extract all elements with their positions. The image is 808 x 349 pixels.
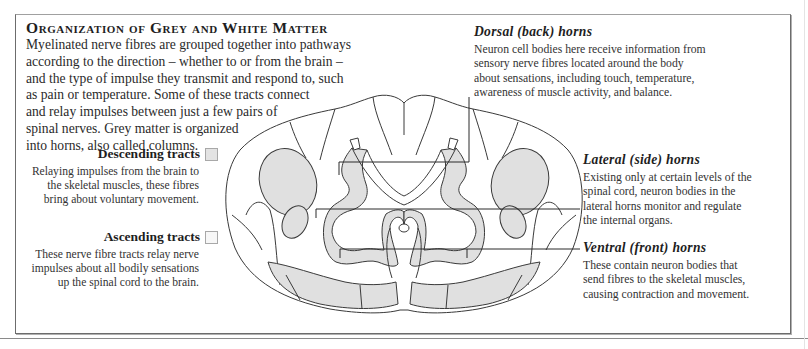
- callout-line: about sensations, including touch, tempe…: [474, 72, 706, 86]
- callout-line: Existing only at certain levels of the: [583, 171, 752, 185]
- dorsal-horns-label: Dorsal (back) horns: [474, 24, 706, 40]
- callout-lateral: Lateral (side) horns Existing only at ce…: [583, 152, 752, 228]
- callout-dorsal: Dorsal (back) horns Neuron cell bodies h…: [474, 24, 706, 100]
- callout-line: awareness of muscle activity, and balanc…: [474, 86, 706, 100]
- ventral-horns-label: Ventral (front) horns: [583, 240, 749, 256]
- callout-line: spinal cord, neuron bodies in the: [583, 185, 752, 199]
- callout-line: These contain neuron bodies that: [583, 259, 749, 273]
- callout-line: causing contraction and movement.: [583, 288, 749, 302]
- callout-line: send fibres to the skeletal muscles,: [583, 273, 749, 287]
- callout-line: lateral horns monitor and regulate: [583, 200, 752, 214]
- callout-line: the internal organs.: [583, 214, 752, 228]
- callout-line: sensory nerve fibres located around the …: [474, 57, 706, 71]
- callout-line: Neuron cell bodies here receive informat…: [474, 43, 706, 57]
- lateral-horns-label: Lateral (side) horns: [583, 152, 752, 168]
- central-canal: [399, 224, 409, 232]
- callout-ventral: Ventral (front) horns These contain neur…: [583, 240, 749, 302]
